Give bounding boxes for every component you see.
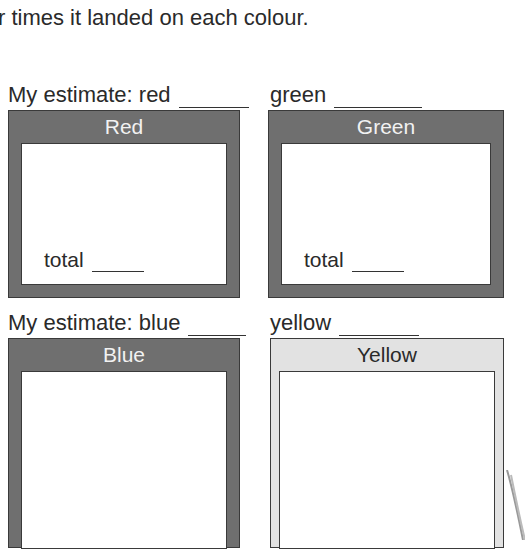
blue-tally-box: Blue [8, 338, 240, 548]
red-tally-box: Red total [8, 110, 240, 298]
yellow-tally-area[interactable] [279, 371, 495, 549]
red-total-label: total [44, 248, 84, 272]
estimate-red-label: My estimate: red [8, 82, 171, 108]
estimate-yellow-label: yellow [270, 310, 331, 336]
estimate-red-blank[interactable] [179, 87, 249, 108]
blue-tally-area[interactable] [21, 371, 227, 549]
green-total: total [304, 248, 404, 272]
estimate-yellow: yellow [270, 310, 419, 336]
red-total: total [44, 248, 144, 272]
yellow-tally-box: Yellow [270, 338, 504, 548]
estimate-blue-label: My estimate: blue [8, 310, 180, 336]
instructions-text: r times it landed on each colour. [0, 5, 309, 31]
red-tally-area[interactable]: total [21, 143, 227, 285]
green-total-blank[interactable] [352, 251, 404, 272]
red-total-blank[interactable] [92, 251, 144, 272]
red-box-title: Red [9, 111, 239, 143]
blue-box-title: Blue [9, 339, 239, 371]
green-tally-area[interactable]: total [281, 143, 491, 285]
estimate-red: My estimate: red [8, 82, 249, 108]
estimate-blue: My estimate: blue [8, 310, 246, 336]
green-total-label: total [304, 248, 344, 272]
green-tally-box: Green total [268, 110, 504, 298]
estimate-green-blank[interactable] [334, 87, 422, 108]
green-box-title: Green [269, 111, 503, 143]
estimate-green-label: green [270, 82, 326, 108]
estimate-blue-blank[interactable] [188, 315, 246, 336]
yellow-box-title: Yellow [271, 339, 503, 371]
binding-wire-icon [505, 470, 525, 540]
estimate-yellow-blank[interactable] [339, 315, 419, 336]
estimate-green: green [270, 82, 422, 108]
